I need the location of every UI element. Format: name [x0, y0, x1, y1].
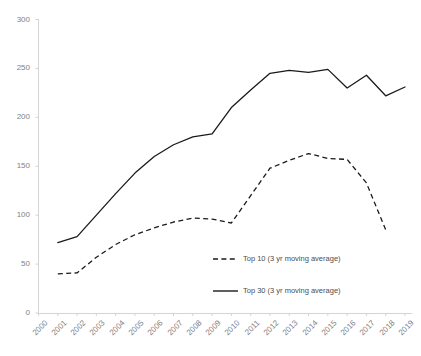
y-axis-tick-label: 50 [4, 260, 30, 268]
y-axis-tick-label: 250 [4, 64, 30, 72]
legend-item-top-10: Top 10 (3 yr moving average) [243, 255, 341, 263]
y-axis-tick-label: 100 [4, 211, 30, 219]
legend-item-top-30: Top 30 (3 yr moving average) [243, 287, 341, 295]
y-axis-tick-label: 200 [4, 113, 30, 121]
series-line-top-30 [58, 69, 405, 242]
y-axis-tick-label: 150 [4, 162, 30, 170]
line-chart: 050100150200250300 200020012002200320042… [0, 0, 421, 356]
chart-plot-area [0, 0, 421, 356]
y-axis-tick-label: 300 [4, 16, 30, 24]
y-axis-tick-label: 0 [4, 309, 30, 317]
